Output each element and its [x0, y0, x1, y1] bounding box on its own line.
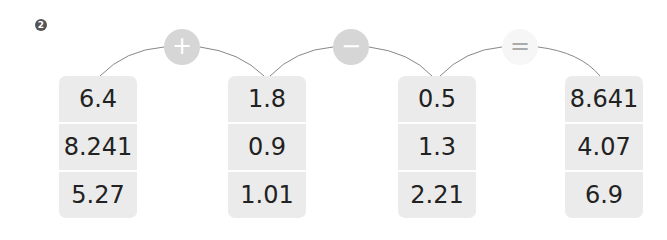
- number-card: 5.27: [59, 172, 137, 218]
- number-card: 1.01: [228, 172, 306, 218]
- plus-operator: +: [164, 29, 200, 65]
- number-column-2: 1.8 0.9 1.01: [228, 76, 306, 218]
- number-card: 1.8: [228, 76, 306, 122]
- number-column-1: 6.4 8.241 5.27: [59, 76, 137, 218]
- number-card: 0.9: [228, 124, 306, 170]
- number-card: 0.5: [398, 76, 476, 122]
- number-card: 4.07: [565, 124, 643, 170]
- number-card: 8.241: [59, 124, 137, 170]
- number-card: 1.3: [398, 124, 476, 170]
- number-card: 6.4: [59, 76, 137, 122]
- number-column-4: 8.641 4.07 6.9: [565, 76, 643, 218]
- number-column-3: 0.5 1.3 2.21: [398, 76, 476, 218]
- number-card: 2.21: [398, 172, 476, 218]
- minus-operator: −: [333, 29, 369, 65]
- number-card: 6.9: [565, 172, 643, 218]
- equals-operator: =: [502, 29, 538, 65]
- number-card: 8.641: [565, 76, 643, 122]
